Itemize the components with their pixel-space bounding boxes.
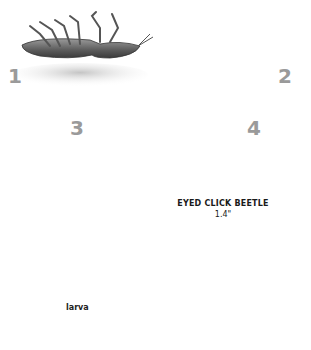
step-number-3: 3 — [70, 118, 84, 138]
step-number-2: 2 — [278, 66, 292, 86]
step-number-4: 4 — [247, 118, 261, 138]
click-beetle-illustration — [0, 0, 311, 350]
larva-label: larva — [66, 303, 89, 312]
size-label: 1.4" — [168, 210, 278, 219]
step-1-beetle — [12, 12, 153, 87]
species-label: EYED CLICK BEETLE — [168, 199, 278, 208]
step-number-1: 1 — [8, 66, 22, 86]
